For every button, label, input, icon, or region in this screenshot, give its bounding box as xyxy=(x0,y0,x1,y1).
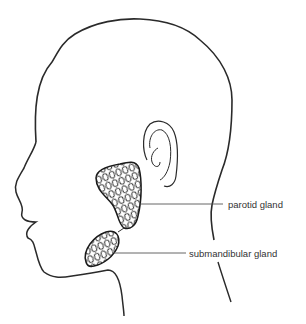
submandibular-gland-label: submandibular gland xyxy=(189,249,277,259)
ear-concha xyxy=(151,148,160,167)
ear-outer xyxy=(144,121,178,186)
parotid-gland xyxy=(96,162,141,228)
parotid-gland-label: parotid gland xyxy=(228,200,283,210)
ear-inner xyxy=(150,130,171,180)
neck-back-outline xyxy=(218,262,231,302)
gland-duct xyxy=(118,228,124,232)
head-diagram xyxy=(0,0,306,324)
submandibular-gland xyxy=(85,231,119,266)
